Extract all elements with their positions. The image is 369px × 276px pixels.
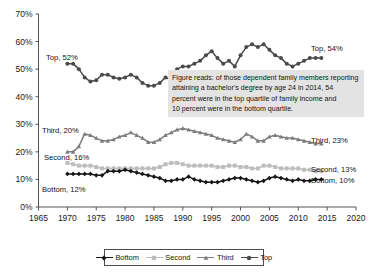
data-point-marker (152, 166, 156, 170)
data-point-marker (210, 49, 214, 53)
data-point-marker (192, 62, 196, 66)
data-point-marker (158, 176, 162, 181)
data-point-marker (267, 164, 271, 168)
callout-line: Figure reads: of those dependent family … (172, 73, 360, 83)
label-top-end: Top, 54% (311, 44, 343, 53)
data-point-marker (94, 173, 98, 178)
callout-line: percent were in the top quartile of fami… (172, 94, 360, 104)
x-axis-tick-label: 2005 (260, 213, 279, 223)
data-point-marker (175, 161, 179, 165)
data-point-marker (65, 172, 69, 177)
legend-label: Top (260, 253, 272, 262)
legend-label: Bottom (115, 253, 138, 262)
data-point-marker (233, 164, 237, 168)
data-point-marker (221, 62, 225, 66)
data-point-marker (244, 165, 248, 169)
legend-square-icon (146, 254, 163, 261)
data-point-marker (117, 77, 121, 81)
data-point-marker (273, 165, 277, 169)
x-axis-tick-label: 1965 (29, 213, 48, 223)
data-point-marker (239, 165, 243, 169)
legend-item-bottom[interactable]: Bottom (96, 253, 139, 262)
data-point-marker (198, 59, 202, 63)
data-point-marker (164, 75, 168, 79)
x-axis-tick-label: 1990 (173, 213, 192, 223)
data-point-marker (296, 166, 300, 170)
data-point-marker (164, 162, 168, 166)
data-point-marker (77, 172, 81, 177)
data-point-marker (308, 56, 312, 60)
data-point-marker (192, 164, 196, 168)
data-point-marker (244, 177, 248, 182)
data-point-marker (100, 73, 104, 77)
label-third-start: Third, 20% (42, 126, 79, 135)
data-point-marker (250, 178, 254, 183)
x-axis-tick-label: 2020 (347, 213, 366, 223)
data-point-marker (215, 165, 219, 169)
data-point-marker (227, 164, 231, 168)
data-point-marker (140, 81, 144, 85)
data-point-marker (302, 168, 306, 172)
data-point-marker (273, 53, 277, 57)
x-axis-tick-label: 1975 (87, 213, 106, 223)
x-axis-tick-group: 1965197019751980198519901995200020052010… (29, 207, 366, 223)
data-point-marker (152, 84, 156, 88)
data-point-marker (250, 166, 254, 170)
data-point-marker (285, 177, 289, 182)
data-point-marker (227, 177, 231, 182)
data-point-marker (140, 172, 144, 177)
data-point-marker (198, 164, 202, 168)
data-point-marker (244, 132, 248, 136)
data-point-marker (256, 180, 260, 185)
data-point-marker (71, 172, 75, 177)
y-axis-tick-label: 20% (15, 147, 32, 157)
data-point-marker (291, 166, 295, 170)
data-point-marker (227, 59, 231, 63)
data-point-marker (319, 56, 323, 60)
data-point-marker (169, 178, 173, 183)
data-point-marker (279, 56, 283, 60)
data-point-marker (233, 64, 237, 68)
data-point-marker (279, 166, 283, 170)
legend-label: Second (165, 253, 190, 262)
legend-item-second[interactable]: Second (146, 253, 191, 262)
data-point-marker (146, 84, 150, 88)
legend-item-third[interactable]: Third (197, 253, 233, 262)
y-axis-tick-label: 40% (15, 92, 32, 102)
x-axis-tick-label: 1980 (116, 213, 135, 223)
data-point-marker (261, 178, 265, 183)
data-point-marker (256, 45, 260, 49)
data-point-marker (279, 176, 283, 181)
callout-line: attaining a bachelor's degree by age 24 … (172, 83, 360, 93)
data-point-marker (88, 80, 92, 84)
data-point-marker (209, 180, 213, 185)
data-point-marker (238, 176, 242, 181)
data-point-marker (262, 42, 266, 46)
y-axis-tick-label: 70% (15, 9, 32, 19)
data-point-marker (285, 62, 289, 66)
series-third (65, 126, 323, 154)
data-point-marker (82, 172, 86, 177)
data-point-marker (175, 177, 179, 182)
data-point-marker (152, 174, 156, 179)
legend-item-top[interactable]: Top (241, 253, 272, 262)
data-point-marker (221, 165, 225, 169)
line-chart-plot: 0%10%20%30%40%50%60%70% 1965197019751980… (0, 0, 369, 276)
data-point-marker (158, 165, 162, 169)
y-axis-tick-label: 50% (15, 64, 32, 74)
data-point-marker (187, 164, 191, 168)
data-point-marker (71, 162, 75, 166)
data-point-marker (106, 73, 110, 77)
data-point-marker (83, 75, 87, 79)
y-axis-tick-group: 0%10%20%30%40%50%60%70% (15, 9, 38, 212)
label-second-start: Second, 16% (44, 153, 89, 162)
data-point-marker (169, 161, 173, 165)
data-point-marker (215, 56, 219, 60)
data-point-marker (123, 75, 127, 79)
data-point-marker (267, 48, 271, 52)
x-axis-tick-label: 2015 (318, 213, 337, 223)
x-axis-tick-label: 1985 (144, 213, 163, 223)
data-point-marker (88, 164, 92, 168)
y-axis-tick-label: 30% (15, 119, 32, 129)
y-axis-tick-label: 60% (15, 37, 32, 47)
